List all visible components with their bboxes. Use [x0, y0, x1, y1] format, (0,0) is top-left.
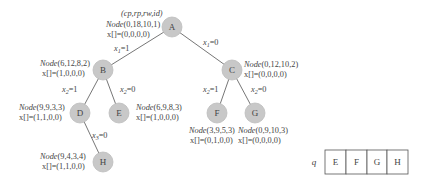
node-g-x: x[]=(0,0,0,0) [238, 136, 281, 145]
edge-label-b-e: x2=0 [119, 85, 136, 95]
node-f-info: Node(3,9,5,3) [188, 126, 235, 135]
svg-text:F: F [214, 108, 219, 118]
node-d-x: x[]=(1,1,0,0) [19, 113, 62, 122]
node-e-info: Node(6,9,8,3) [135, 103, 182, 112]
queue-item-3: H [394, 157, 401, 167]
node-a-x: x[]=(0,0,0,0) [107, 30, 150, 39]
svg-text:H: H [100, 157, 107, 167]
search-tree-diagram: x1=1 x1=0 x2=1 x2=0 x2=1 x2=0 x3=0 A (cp… [0, 0, 424, 183]
svg-text:C: C [229, 65, 235, 75]
header-label: (cp,rp,rw,id) [121, 9, 163, 18]
svg-text:B: B [100, 65, 106, 75]
queue-item-1: F [354, 157, 359, 167]
node-c-info: Node(0,12,10,2) [243, 60, 298, 69]
svg-text:D: D [77, 108, 84, 118]
node-e-x: x[]=(1,0,0,0) [136, 113, 179, 122]
queue-item-2: G [374, 157, 381, 167]
node-b-info: Node(6,12,8,2) [39, 59, 90, 68]
tree-node-a: A [162, 17, 182, 37]
edge-a-c [172, 27, 232, 70]
node-g-info: Node(0,9,10,3) [237, 126, 288, 135]
node-f-x: x[]=(0,1,0,0) [190, 136, 233, 145]
node-h-x: x[]=(1,1,0,0) [42, 162, 85, 171]
edge-label-c-g: x2=0 [250, 85, 267, 95]
queue: q E F G H [312, 150, 408, 174]
queue-item-0: E [333, 157, 339, 167]
edge-label-b-d: x2=1 [61, 85, 78, 95]
node-c-x: x[]=(0,0,0,0) [244, 70, 287, 79]
edge-label-d-h: x3=0 [91, 131, 108, 141]
tree-node-h: H [93, 152, 113, 172]
tree-node-d: D [70, 103, 90, 123]
svg-text:G: G [252, 108, 259, 118]
tree-node-f: F [207, 103, 227, 123]
edge-label-a-b: x1=1 [113, 44, 130, 54]
tree-node-e: E [109, 103, 129, 123]
edge-label-c-f: x2=1 [202, 85, 219, 95]
queue-label: q [312, 157, 317, 167]
node-h-info: Node(9,4,3,4) [39, 152, 86, 161]
edge-label-a-c: x1=0 [202, 38, 219, 48]
svg-text:A: A [169, 22, 176, 32]
tree-node-c: C [222, 60, 242, 80]
node-a-info: Node(0,18,10,1) [105, 20, 160, 29]
node-b-x: x[]=(1,0,0,0) [42, 69, 85, 78]
node-d-info: Node(9,9,3,3) [18, 103, 65, 112]
svg-text:E: E [116, 108, 122, 118]
tree-node-g: G [245, 103, 265, 123]
tree-node-b: B [93, 60, 113, 80]
